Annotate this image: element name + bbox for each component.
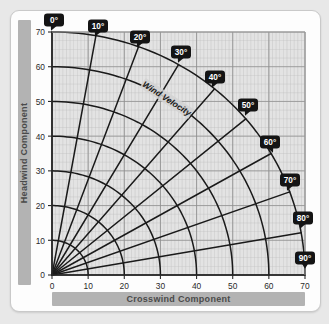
angle-badge-label: 70°: [284, 176, 296, 185]
y-tick-label: 10: [36, 236, 46, 246]
y-tick-label: 0: [40, 270, 45, 280]
y-tick-label: 70: [36, 27, 46, 37]
angle-badge-label: 40°: [209, 73, 221, 82]
angle-badge-0[interactable]: 0°: [44, 14, 64, 31]
y-tick-label: 50: [36, 97, 46, 107]
x-tick-label: 20: [120, 281, 130, 291]
angle-badge-label: 60°: [264, 138, 276, 147]
y-axis-title-bar: Headwind Component: [18, 20, 31, 285]
angle-badge-label: 90°: [299, 254, 311, 263]
x-tick-label: 10: [83, 281, 93, 291]
y-tick-label: 30: [36, 166, 46, 176]
x-tick-label: 40: [192, 281, 202, 291]
x-tick-label: 0: [50, 281, 55, 291]
x-axis-ticks: 010203040506070: [50, 275, 310, 291]
x-tick-label: 50: [228, 281, 238, 291]
angle-badge-label: 20°: [134, 33, 146, 42]
crosswind-component-chart: 010203040506070010203040506070Wind Veloc…: [0, 0, 329, 324]
angle-badge-label: 50°: [242, 101, 254, 110]
angle-badge-label: 30°: [175, 48, 187, 57]
x-tick-label: 30: [156, 281, 166, 291]
y-tick-label: 60: [36, 62, 46, 72]
x-tick-label: 60: [264, 281, 274, 291]
x-axis-title-bar: Crosswind Component: [52, 292, 305, 306]
angle-badge-label: 10°: [92, 22, 104, 31]
angle-badge-label: 0°: [50, 16, 58, 25]
y-tick-label: 40: [36, 132, 46, 142]
y-axis-ticks: 010203040506070: [36, 27, 52, 280]
chart-canvas: 010203040506070010203040506070Wind Veloc…: [0, 0, 329, 324]
angle-badge-label: 80°: [297, 214, 309, 223]
y-tick-label: 20: [36, 201, 46, 211]
x-axis-title: Crosswind Component: [126, 294, 230, 304]
x-tick-label: 70: [300, 281, 310, 291]
y-axis-title: Headwind Component: [20, 102, 30, 202]
